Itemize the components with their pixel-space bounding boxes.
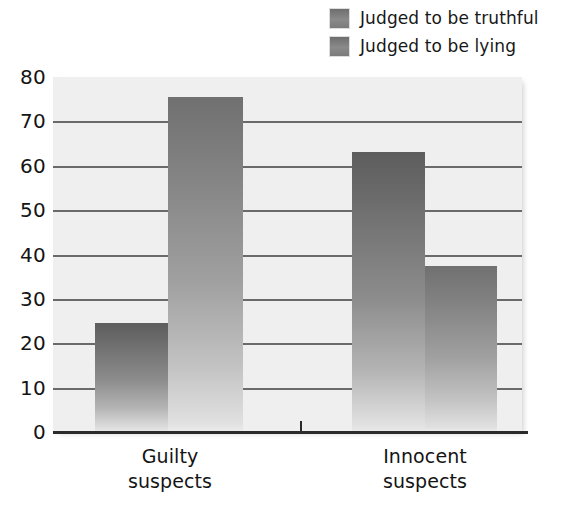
legend-label-truthful: Judged to be truthful	[360, 10, 539, 27]
x-label-innocent-line2: suspects	[350, 469, 500, 494]
x-label-guilty-line1: Guilty	[95, 444, 245, 469]
bar-guilty-lying[interactable]	[168, 97, 243, 432]
x-axis-line	[53, 431, 528, 434]
plot-area-wrapper	[53, 77, 522, 432]
x-axis-labels: Guilty suspects Innocent suspects	[0, 444, 566, 504]
y-tick-20: 20	[20, 333, 46, 353]
y-tick-40: 40	[20, 245, 46, 265]
bar-innocent-lying[interactable]	[425, 266, 497, 432]
y-tick-30: 30	[20, 289, 46, 309]
legend-swatch-icon-lying	[330, 37, 349, 56]
x-label-innocent-suspects: Innocent suspects	[350, 444, 500, 494]
y-tick-10: 10	[20, 378, 46, 398]
x-label-innocent-line1: Innocent	[350, 444, 500, 469]
legend-swatch-icon-truthful	[330, 9, 349, 28]
bar-innocent-truthful[interactable]	[352, 152, 425, 432]
legend-label-lying: Judged to be lying	[360, 38, 516, 55]
y-tick-80: 80	[20, 67, 46, 87]
legend-item-truthful: Judged to be truthful	[330, 6, 539, 30]
x-label-guilty-suspects: Guilty suspects	[95, 444, 245, 494]
y-tick-60: 60	[20, 156, 46, 176]
y-tick-70: 70	[20, 111, 46, 131]
y-tick-0: 0	[33, 422, 46, 442]
y-axis-labels: 80 70 60 50 40 30 20 10 0	[0, 77, 46, 432]
bar-chart: Judged to be truthful Judged to be lying…	[0, 0, 566, 511]
legend-item-lying: Judged to be lying	[330, 34, 539, 58]
x-label-guilty-line2: suspects	[95, 469, 245, 494]
bar-guilty-truthful[interactable]	[95, 323, 168, 432]
bars	[53, 77, 522, 432]
y-tick-50: 50	[20, 200, 46, 220]
chart-legend: Judged to be truthful Judged to be lying	[330, 6, 539, 58]
